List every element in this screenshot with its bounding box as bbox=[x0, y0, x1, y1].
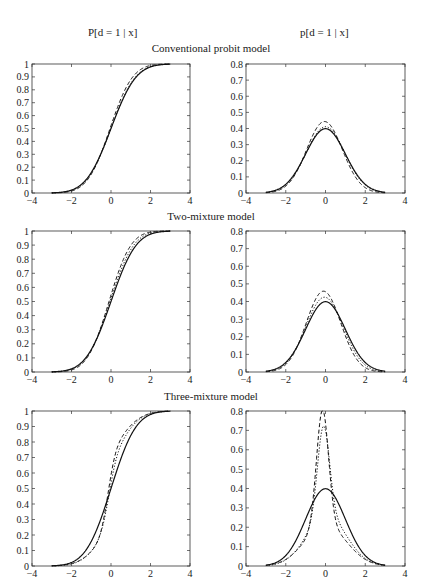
y-tick-label: 0.8 bbox=[17, 254, 30, 265]
y-tick-label: 0.5 bbox=[17, 483, 30, 494]
series-solid-line bbox=[52, 411, 171, 566]
plot-row2-right: −4−202400.10.20.30.40.50.60.70.8 bbox=[231, 226, 408, 386]
x-tick-label: −2 bbox=[66, 568, 77, 579]
y-tick-label: 0.2 bbox=[17, 530, 30, 541]
y-tick-label: 1 bbox=[24, 406, 29, 417]
y-tick-label: 0.6 bbox=[17, 468, 30, 479]
series-solid-line bbox=[266, 489, 385, 565]
series-dashed-line bbox=[266, 122, 385, 193]
y-tick-label: 0.4 bbox=[231, 296, 244, 307]
x-tick-label: 0 bbox=[323, 568, 328, 579]
y-tick-label: 0.6 bbox=[17, 282, 30, 293]
series-dashed-line bbox=[266, 291, 385, 372]
y-tick-label: 0 bbox=[238, 561, 243, 572]
series-dotted-line bbox=[266, 297, 385, 371]
y-tick-label: 0.1 bbox=[17, 175, 30, 186]
series-dotted-line bbox=[266, 426, 385, 565]
y-tick-label: 0.3 bbox=[231, 502, 244, 513]
plot-row3-right: −4−202400.10.20.30.40.50.60.70.8 bbox=[231, 406, 408, 580]
y-tick-label: 1 bbox=[24, 226, 29, 237]
y-tick-label: 0.8 bbox=[17, 437, 30, 448]
y-tick-label: 0.6 bbox=[231, 91, 244, 102]
x-tick-label: 2 bbox=[363, 374, 368, 385]
y-tick-label: 0.7 bbox=[17, 97, 30, 108]
y-tick-label: 0.8 bbox=[231, 406, 244, 417]
x-tick-label: −2 bbox=[280, 568, 291, 579]
x-tick-label: −2 bbox=[280, 195, 291, 206]
y-tick-label: 0.5 bbox=[231, 107, 244, 118]
y-tick-label: 1 bbox=[24, 59, 29, 70]
y-tick-label: 0.3 bbox=[231, 139, 244, 150]
y-tick-label: 0.1 bbox=[17, 352, 30, 363]
y-tick-label: 0.2 bbox=[17, 338, 30, 349]
y-tick-label: 0.8 bbox=[231, 59, 244, 70]
y-tick-label: 0.6 bbox=[231, 261, 244, 272]
x-tick-label: 0 bbox=[109, 374, 114, 385]
x-tick-label: 2 bbox=[148, 374, 153, 385]
y-tick-label: 0.5 bbox=[17, 296, 30, 307]
series-solid-line bbox=[266, 129, 385, 193]
plot-row1-left: −4−202400.10.20.30.40.50.60.70.80.91 bbox=[17, 59, 193, 207]
y-tick-label: 0.1 bbox=[231, 171, 244, 182]
y-tick-label: 0.4 bbox=[231, 483, 244, 494]
x-tick-label: 4 bbox=[403, 195, 408, 206]
y-tick-label: 0.1 bbox=[231, 349, 244, 360]
series-solid-line bbox=[266, 302, 385, 372]
x-tick-label: 0 bbox=[323, 195, 328, 206]
x-tick-label: −2 bbox=[66, 374, 77, 385]
y-tick-label: 0.9 bbox=[17, 421, 30, 432]
y-tick-label: 0.6 bbox=[231, 444, 244, 455]
series-dotted-line bbox=[266, 127, 385, 193]
y-tick-label: 0.7 bbox=[231, 425, 244, 436]
y-tick-label: 0.5 bbox=[231, 278, 244, 289]
x-tick-label: 4 bbox=[188, 195, 193, 206]
y-tick-label: 0.3 bbox=[17, 514, 30, 525]
x-tick-label: 0 bbox=[109, 195, 114, 206]
y-tick-label: 0 bbox=[24, 188, 29, 199]
x-tick-label: 4 bbox=[403, 374, 408, 385]
y-tick-label: 0.4 bbox=[17, 310, 30, 321]
y-tick-label: 0.4 bbox=[231, 123, 244, 134]
y-tick-label: 0.7 bbox=[231, 75, 244, 86]
y-tick-label: 0.3 bbox=[17, 149, 30, 160]
y-tick-label: 0 bbox=[24, 561, 29, 572]
x-tick-label: 0 bbox=[323, 374, 328, 385]
x-tick-label: 4 bbox=[403, 568, 408, 579]
y-tick-label: 0.4 bbox=[17, 499, 30, 510]
y-tick-label: 0.2 bbox=[17, 162, 30, 173]
y-tick-label: 0.7 bbox=[231, 243, 244, 254]
y-tick-label: 0 bbox=[238, 367, 243, 378]
x-tick-label: −2 bbox=[280, 374, 291, 385]
x-tick-label: 2 bbox=[148, 568, 153, 579]
y-tick-label: 0.3 bbox=[231, 314, 244, 325]
x-tick-label: 4 bbox=[188, 568, 193, 579]
x-tick-label: 0 bbox=[109, 568, 114, 579]
y-tick-label: 0.5 bbox=[17, 123, 30, 134]
y-tick-label: 0.8 bbox=[231, 226, 244, 237]
y-tick-label: 0.2 bbox=[231, 331, 244, 342]
x-tick-label: 2 bbox=[363, 195, 368, 206]
x-tick-label: −2 bbox=[66, 195, 77, 206]
y-tick-label: 0.2 bbox=[231, 155, 244, 166]
plot-row2-left: −4−202400.10.20.30.40.50.60.70.80.91 bbox=[17, 226, 193, 386]
plot-row3-left: −4−202400.10.20.30.40.50.60.70.80.91 bbox=[17, 406, 193, 580]
y-tick-label: 0.3 bbox=[17, 324, 30, 335]
y-tick-label: 0.1 bbox=[231, 541, 244, 552]
y-tick-label: 0.2 bbox=[231, 522, 244, 533]
y-tick-label: 0.9 bbox=[17, 71, 30, 82]
y-tick-label: 0.1 bbox=[17, 545, 30, 556]
y-tick-label: 0.5 bbox=[231, 464, 244, 475]
plot-row1-right: −4−202400.10.20.30.40.50.60.70.8 bbox=[231, 59, 408, 207]
series-solid-line bbox=[52, 231, 171, 372]
x-tick-label: 2 bbox=[148, 195, 153, 206]
y-tick-label: 0.4 bbox=[17, 136, 30, 147]
x-tick-label: 4 bbox=[188, 374, 193, 385]
y-tick-label: 0.8 bbox=[17, 84, 30, 95]
y-tick-label: 0.9 bbox=[17, 240, 30, 251]
y-tick-label: 0.7 bbox=[17, 452, 30, 463]
y-tick-label: 0 bbox=[238, 188, 243, 199]
series-solid-line bbox=[52, 64, 171, 193]
y-tick-label: 0 bbox=[24, 367, 29, 378]
y-tick-label: 0.6 bbox=[17, 110, 30, 121]
x-tick-label: 2 bbox=[363, 568, 368, 579]
